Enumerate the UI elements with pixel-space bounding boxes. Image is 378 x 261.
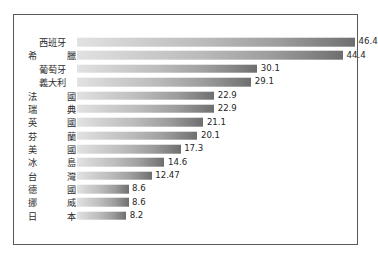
bar-track: 29.1: [77, 78, 355, 87]
bar-value-label: 14.6: [164, 158, 187, 167]
bar: [77, 91, 214, 100]
category-label: 日 本: [28, 210, 76, 221]
bar-row: 法 國22.9: [14, 89, 357, 102]
bar-row: 德 國8.6: [14, 182, 357, 195]
bar-row: 瑞 典22.9: [14, 102, 357, 115]
bar-track: 17.3: [77, 145, 355, 154]
bar-value-label: 44.4: [343, 51, 366, 60]
bar-row: 英 國21.1: [14, 116, 357, 129]
bar-value-label: 22.9: [214, 104, 237, 113]
category-label: 法 國: [28, 90, 76, 101]
bar: [77, 65, 257, 74]
bar-track: 21.1: [77, 118, 355, 127]
bar-row: 西班牙46.4: [14, 36, 357, 49]
bar-value-label: 22.9: [214, 91, 237, 100]
category-label: 葡萄牙: [28, 63, 76, 74]
bar-track: 22.9: [77, 105, 355, 114]
bar-chart-plot-area: 西班牙46.4希 臘44.4葡萄牙30.1義大利29.1法 國22.9瑞 典22…: [14, 15, 357, 244]
bar: [77, 131, 197, 140]
category-label: 瑞 典: [28, 103, 76, 114]
bar-row: 義大利29.1: [14, 76, 357, 89]
bar: [77, 118, 203, 127]
bar: [77, 105, 214, 114]
bar: [77, 185, 129, 194]
bar-row: 美 國17.3: [14, 142, 357, 155]
bar-value-label: 17.3: [181, 144, 204, 153]
bar-track: 44.4: [77, 51, 355, 60]
bar-track: 12.47: [77, 171, 355, 180]
category-label: 台 灣: [28, 170, 76, 181]
bar-value-label: 12.47: [152, 171, 180, 180]
bar-value-label: 8.6: [129, 198, 146, 207]
bar-value-label: 46.4: [355, 38, 378, 47]
category-label: 希 臘: [28, 50, 76, 61]
bar-value-label: 21.1: [203, 118, 226, 127]
category-label: 義大利: [28, 77, 76, 88]
bar-row: 希 臘44.4: [14, 49, 357, 62]
bar-track: 46.4: [77, 38, 355, 47]
bar: [77, 211, 126, 220]
bar-track: 14.6: [77, 158, 355, 167]
category-label: 芬 蘭: [28, 130, 76, 141]
bar: [77, 78, 251, 87]
category-label: 挪 威: [28, 197, 76, 208]
bar-track: 22.9: [77, 91, 355, 100]
category-label: 冰 島: [28, 157, 76, 168]
category-label: 美 國: [28, 143, 76, 154]
chart-frame: 西班牙46.4希 臘44.4葡萄牙30.1義大利29.1法 國22.9瑞 典22…: [13, 14, 358, 245]
bar-row: 挪 威8.6: [14, 196, 357, 209]
bar-row: 冰 島14.6: [14, 156, 357, 169]
category-label: 西班牙: [28, 37, 76, 48]
bar-value-label: 30.1: [257, 64, 280, 73]
category-label: 英 國: [28, 117, 76, 128]
bar-value-label: 29.1: [251, 78, 274, 87]
category-label: 德 國: [28, 183, 76, 194]
bar-track: 20.1: [77, 131, 355, 140]
bar-value-label: 20.1: [197, 131, 220, 140]
bar: [77, 158, 164, 167]
bar-row: 芬 蘭20.1: [14, 129, 357, 142]
bar: [77, 145, 181, 154]
bar-row: 台 灣12.47: [14, 169, 357, 182]
bar-track: 30.1: [77, 65, 355, 74]
bar: [77, 198, 129, 207]
bar: [77, 51, 343, 60]
bar-row: 葡萄牙30.1: [14, 62, 357, 75]
bar-row: 日 本8.2: [14, 209, 357, 222]
bar-value-label: 8.6: [129, 184, 146, 193]
bar: [77, 171, 152, 180]
bar-track: 8.6: [77, 185, 355, 194]
bar: [77, 38, 355, 47]
bar-value-label: 8.2: [126, 211, 143, 220]
bar-track: 8.6: [77, 198, 355, 207]
bar-track: 8.2: [77, 211, 355, 220]
